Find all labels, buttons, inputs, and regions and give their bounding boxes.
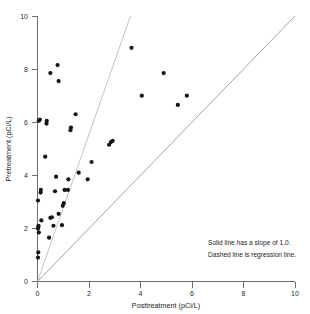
data-point <box>39 188 43 192</box>
data-point <box>111 139 115 143</box>
x-tick-label: 6 <box>190 290 194 297</box>
data-point <box>77 171 81 175</box>
data-point <box>57 79 61 83</box>
data-point <box>185 94 189 98</box>
data-point <box>129 46 133 50</box>
data-point <box>39 218 43 222</box>
y-axis-ticks: 0246810 <box>20 13 37 286</box>
y-tick-label: 2 <box>24 225 28 232</box>
x-tick-label: 2 <box>87 290 91 297</box>
annotation-solid-line: Solid line has a slope of 1.0. <box>208 239 291 247</box>
data-point <box>36 250 40 254</box>
data-point <box>53 189 57 193</box>
plot-canvas: 0246810 0246810 Posttreatment (pCi/L) Pr… <box>0 0 310 314</box>
y-tick-label: 0 <box>24 278 28 285</box>
data-point <box>162 71 166 75</box>
data-point <box>89 160 93 164</box>
y-axis-title: Pretreatment (pCi/L) <box>4 116 13 181</box>
data-point <box>36 256 40 260</box>
y-tick-label: 8 <box>24 66 28 73</box>
annotation-dashed-line: Dashed line is regression line. <box>208 251 296 259</box>
data-point <box>74 112 78 116</box>
data-point <box>45 119 49 123</box>
data-point <box>66 177 70 181</box>
data-point <box>47 236 51 240</box>
data-point <box>60 223 64 227</box>
data-point <box>55 63 59 67</box>
data-point <box>38 117 42 121</box>
data-point <box>57 212 61 216</box>
x-tick-label: 0 <box>36 290 40 297</box>
data-point <box>48 71 52 75</box>
data-point <box>51 224 55 228</box>
x-axis-ticks: 0246810 <box>36 282 299 298</box>
data-point <box>43 155 47 159</box>
data-point <box>37 230 41 234</box>
data-point <box>69 125 73 129</box>
data-point <box>54 175 58 179</box>
data-point <box>176 103 180 107</box>
x-tick-label: 4 <box>139 290 143 297</box>
data-point <box>140 94 144 98</box>
x-tick-label: 8 <box>242 290 246 297</box>
dashed-regression-line <box>38 16 131 282</box>
data-points <box>36 46 189 260</box>
data-point <box>36 198 40 202</box>
data-point <box>86 177 90 181</box>
x-tick-label: 10 <box>291 290 299 297</box>
y-tick-label: 6 <box>24 119 28 126</box>
x-axis-title: Posttreatment (pCi/L) <box>132 301 200 310</box>
y-tick-label: 10 <box>20 13 28 20</box>
data-point <box>36 224 40 228</box>
data-point <box>50 215 54 219</box>
data-point <box>66 188 70 192</box>
data-point <box>62 201 66 205</box>
y-tick-label: 4 <box>24 172 28 179</box>
scatter-plot-figure: 0246810 0246810 Posttreatment (pCi/L) Pr… <box>0 0 310 314</box>
